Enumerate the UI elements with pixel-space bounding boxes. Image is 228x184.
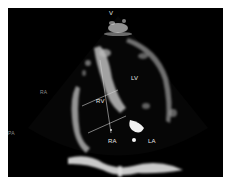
echo-image: V LV RV RA LA RA PA [8,8,223,177]
left-lower-label: PA [8,130,15,136]
la-label: LA [148,138,156,144]
lv-label: LV [131,75,138,81]
rv-label: RV [96,98,105,104]
ra-label: RA [108,138,117,144]
left-upper-label: RA [40,89,47,95]
top-marker-label: V [109,10,113,16]
